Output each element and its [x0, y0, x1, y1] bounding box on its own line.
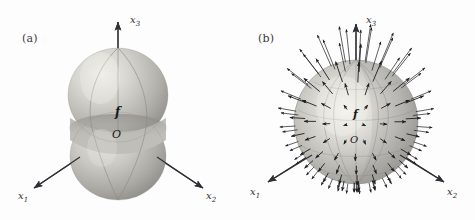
- vector-arrow: [380, 124, 387, 125]
- vector-arrow: [280, 126, 296, 127]
- vector-arrow: [281, 91, 301, 99]
- vector-arrow: [380, 38, 393, 68]
- axis-label-x3-a-sub: 3: [136, 20, 140, 28]
- vector-arrow: [404, 68, 425, 85]
- vector-arrow: [306, 167, 314, 175]
- axis-label-x2-a-sub: 2: [212, 196, 216, 204]
- axis-label-x2-b-sub: 2: [453, 192, 457, 200]
- axis-label-x3-b: x3: [366, 14, 376, 28]
- vector-arrow: [416, 109, 434, 112]
- axis-label-x1-a-sub: 1: [24, 196, 28, 204]
- function-label-f-a: f: [115, 105, 120, 119]
- vector-arrow: [386, 175, 391, 184]
- vector-arrow: [393, 48, 412, 73]
- vector-arrow: [317, 35, 331, 66]
- axis-label-x1-b: x1: [250, 186, 260, 200]
- axis-label-x3-b-sub: 3: [372, 20, 376, 28]
- vector-arrow: [394, 170, 401, 179]
- vector-arrow: [300, 49, 319, 74]
- vector-arrow: [366, 28, 372, 63]
- vector-arrow: [292, 74, 312, 89]
- vector-arrow: [321, 176, 326, 185]
- vector-arrow: [398, 166, 406, 174]
- vector-arrow: [287, 68, 308, 84]
- vector-arrow: [369, 183, 371, 193]
- vector-arrow: [285, 142, 298, 146]
- vector-arrow: [329, 179, 333, 189]
- axis-label-x2-b: x2: [447, 186, 457, 200]
- panel-a: (a) x3 x1 x2 f O: [0, 0, 237, 220]
- vector-arrow: [347, 184, 348, 194]
- origin-label-o-b: O: [350, 134, 358, 145]
- vector-arrow: [414, 142, 427, 146]
- panel-b: (b) x3 x1 x2 f O: [238, 0, 475, 220]
- vector-arrow: [382, 178, 387, 188]
- vector-arrow: [295, 153, 305, 159]
- vector-arrow: [296, 157, 306, 164]
- axis-label-x1-a: x1: [18, 190, 28, 204]
- vector-arrow: [323, 40, 335, 70]
- vector-arrow: [406, 157, 416, 164]
- axis-label-x1-b-sub: 1: [256, 192, 260, 200]
- axis-label-x2-a: x2: [206, 190, 216, 204]
- vector-arrow: [312, 170, 319, 179]
- axis-label-x3-a: x3: [130, 14, 140, 28]
- vector-arrow: [407, 153, 417, 159]
- function-label-f-b: f: [353, 108, 358, 121]
- vector-arrow: [401, 73, 421, 88]
- vector-arrow: [346, 29, 350, 64]
- vector-arrow: [417, 127, 433, 128]
- vector-arrow: [278, 108, 296, 111]
- vector-arrow: [365, 24, 371, 61]
- vector-arrow: [411, 91, 431, 99]
- vector-arrow: [359, 184, 360, 194]
- figure-container: (a) x3 x1 x2 f O: [0, 0, 475, 220]
- panel-label-b: (b): [258, 32, 274, 45]
- origin-label-o-a: O: [112, 128, 121, 141]
- panel-label-a: (a): [22, 32, 38, 45]
- vector-arrow: [380, 33, 394, 65]
